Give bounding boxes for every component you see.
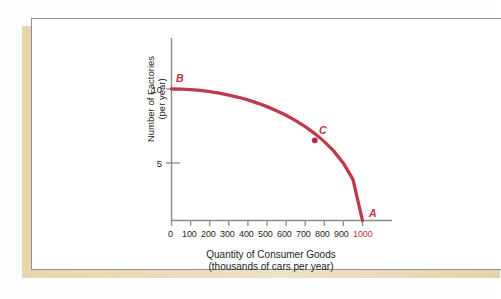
x-tick-label-800: 800 bbox=[315, 229, 330, 239]
x-axis-title: Quantity of Consumer Goods (thousands of… bbox=[171, 249, 371, 273]
x-tick-label-200: 200 bbox=[201, 229, 216, 239]
x-tick-label-600: 600 bbox=[277, 229, 292, 239]
point-label-c: C bbox=[319, 124, 327, 136]
x-tick-label-500: 500 bbox=[258, 229, 273, 239]
x-axis-title-line2: (thousands of cars per year) bbox=[171, 261, 371, 273]
x-tick-label-900: 900 bbox=[334, 229, 349, 239]
x-tick-label-100: 100 bbox=[182, 229, 197, 239]
point-c-marker bbox=[312, 137, 318, 143]
x-tick-label-0: 0 bbox=[168, 229, 173, 239]
point-label-a: A bbox=[369, 207, 377, 219]
point-label-b: B bbox=[176, 72, 184, 84]
y-tick-label-5: 5 bbox=[146, 158, 162, 169]
y-axis-title: Number of Factories (per year) bbox=[145, 43, 167, 155]
y-axis-title-line2: (per year) bbox=[156, 43, 167, 155]
x-tick-label-300: 300 bbox=[220, 229, 235, 239]
x-tick-label-1000: 1000 bbox=[353, 229, 373, 239]
y-axis-title-line1: Number of Factories bbox=[145, 56, 156, 142]
x-tick-label-700: 700 bbox=[296, 229, 311, 239]
x-tick-label-400: 400 bbox=[239, 229, 254, 239]
x-tick-marks bbox=[172, 221, 363, 227]
ppf-curve bbox=[172, 89, 363, 221]
x-axis-title-line1: Quantity of Consumer Goods bbox=[206, 249, 336, 260]
